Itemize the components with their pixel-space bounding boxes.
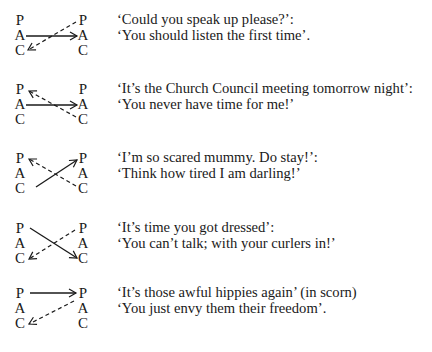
transaction-2: P A C P A C ‘It’s the Church Council mee… (0, 79, 432, 139)
transaction-3: P A C P A C ‘I’m so scared mummy. Do sta… (0, 148, 432, 208)
stimulus-text: ‘I’m so scared mummy. Do stay!’: (117, 150, 318, 165)
transaction-5: P A C P A C ‘It’s those awful hippies ag… (0, 283, 432, 343)
response-text: ‘You just envy them their freedom’. (117, 301, 326, 316)
transaction-4: P A C P A C ‘It’s time you got dressed’:… (0, 218, 432, 278)
response-text: ‘You should listen the first time’. (117, 28, 310, 43)
response-text: ‘You never have time for me!’ (117, 97, 294, 112)
stimulus-text: ‘It’s time you got dressed’: (117, 220, 274, 235)
stimulus-text: ‘It’s the Church Council meeting tomorro… (117, 81, 413, 96)
transaction-1: P A C P A C ‘Could you speak up please?’… (0, 10, 432, 70)
stimulus-text: ‘It’s those awful hippies again’ (in sco… (117, 285, 357, 300)
response-text: ‘Think how tired I am darling!’ (117, 166, 301, 181)
stimulus-text: ‘Could you speak up please?’: (117, 12, 294, 27)
response-text: ‘You can’t talk; with your curlers in!’ (117, 236, 336, 251)
